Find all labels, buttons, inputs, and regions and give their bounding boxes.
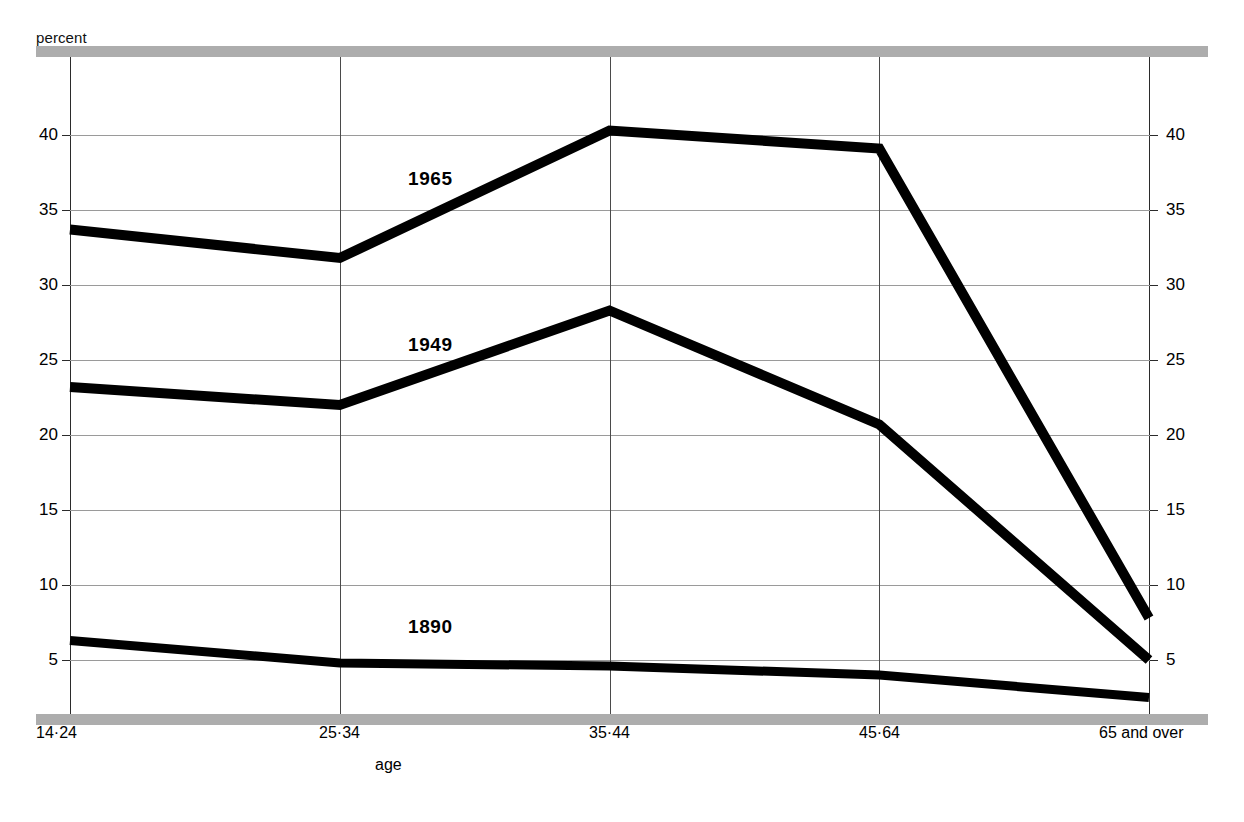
y-tick-mark-right: [1150, 660, 1158, 661]
y-tick-label-right: 30: [1166, 276, 1185, 293]
x-tick-label: 65 and over: [1099, 725, 1184, 741]
y-tick-label-right: 15: [1166, 501, 1185, 518]
series-label-1965: 1965: [408, 169, 453, 188]
series-lines: [70, 57, 1150, 714]
series-line-1965: [70, 131, 1149, 619]
y-tick-mark-right: [1150, 585, 1158, 586]
x-axis-title: age: [375, 757, 402, 773]
series-line-1949: [70, 311, 1149, 661]
y-tick-mark-left: [62, 360, 70, 361]
y-tick-mark-right: [1150, 435, 1158, 436]
y-tick-label-left: 35: [39, 201, 58, 218]
x-tick-label: 35·44: [589, 725, 630, 741]
y-tick-mark-right: [1150, 135, 1158, 136]
plot-area: 510152025303540 510152025303540 14·2425·…: [70, 57, 1150, 714]
y-axis-unit-caption: percent: [36, 30, 87, 45]
y-tick-label-right: 10: [1166, 576, 1185, 593]
y-tick-mark-right: [1150, 285, 1158, 286]
x-tick-label: 45·64: [859, 725, 900, 741]
series-label-1949: 1949: [408, 335, 453, 354]
y-tick-label-right: 5: [1166, 651, 1175, 668]
y-tick-mark-left: [62, 285, 70, 286]
y-tick-mark-right: [1150, 210, 1158, 211]
y-tick-label-left: 30: [39, 276, 58, 293]
y-tick-label-right: 25: [1166, 351, 1185, 368]
chart-figure: percent 510152025303540 510152025303540 …: [0, 0, 1244, 822]
y-tick-mark-left: [62, 435, 70, 436]
y-tick-mark-left: [62, 585, 70, 586]
y-tick-label-right: 20: [1166, 426, 1185, 443]
x-tick-label: 25·34: [319, 725, 360, 741]
y-tick-mark-left: [62, 510, 70, 511]
y-tick-label-left: 40: [39, 126, 58, 143]
y-tick-mark-right: [1150, 360, 1158, 361]
y-tick-label-right: 35: [1166, 201, 1185, 218]
y-tick-label-left: 15: [39, 501, 58, 518]
y-tick-mark-right: [1150, 510, 1158, 511]
y-tick-label-left: 20: [39, 426, 58, 443]
plot-top-rail: [36, 46, 1208, 57]
series-line-1890: [70, 641, 1149, 698]
y-tick-label-right: 40: [1166, 126, 1185, 143]
y-tick-label-left: 5: [49, 651, 58, 668]
x-tick-label: 14·24: [36, 725, 77, 741]
y-tick-mark-left: [62, 660, 70, 661]
series-label-1890: 1890: [408, 617, 453, 636]
y-tick-label-left: 10: [39, 576, 58, 593]
y-tick-label-left: 25: [39, 351, 58, 368]
y-tick-mark-left: [62, 135, 70, 136]
y-tick-mark-left: [62, 210, 70, 211]
